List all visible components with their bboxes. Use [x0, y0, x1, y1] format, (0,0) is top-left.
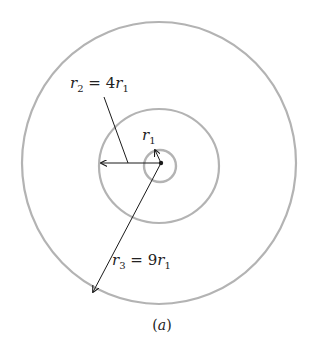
r2-label: r2 = 4r1: [70, 74, 129, 94]
diagram-svg: r2 = 4r1 r1 r3 = 9r1 (a): [0, 0, 319, 355]
r1-arrow: [155, 150, 161, 163]
concentric-circles-diagram: r2 = 4r1 r1 r3 = 9r1 (a): [0, 0, 319, 355]
r1-label: r1: [142, 126, 156, 146]
r3-label: r3 = 9r1: [112, 251, 171, 271]
r2-leader-line: [104, 97, 128, 163]
r3-arrow: [93, 163, 161, 292]
figure-caption: (a): [152, 317, 171, 333]
inner-circle: [144, 150, 176, 182]
